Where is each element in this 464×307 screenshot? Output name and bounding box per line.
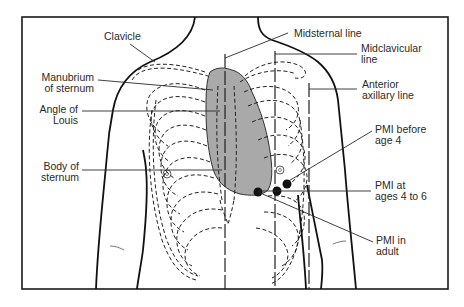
chest-pmi-diagram: Clavicle Manubrium of sternum Angle of L… (0, 0, 464, 307)
heart-silhouette (206, 68, 272, 195)
label-midclavicular-line: Midclavicular line (361, 43, 422, 65)
leader-pmi-before-4 (287, 131, 372, 182)
label-body-of-sternum: Body of sternum (38, 161, 79, 183)
label-manubrium: Manubrium of sternum (38, 72, 94, 94)
pmi-before-age-4-dot (283, 180, 292, 189)
label-anterior-axillary-line: Anterior axillary line (362, 79, 414, 101)
contour-mark-right (333, 241, 346, 244)
right-nipple (276, 166, 284, 174)
label-pmi-adult: PMI in adult (376, 235, 406, 257)
label-clavicle: Clavicle (104, 31, 141, 42)
label-pmi-before-age-4: PMI before age 4 (375, 124, 426, 146)
leader-manubrium (98, 80, 213, 90)
label-midsternal-line: Midsternal line (294, 28, 362, 39)
label-pmi-ages-4-to-6: PMI at ages 4 to 6 (375, 180, 427, 202)
label-angle-of-louis: Angle of Louis (36, 104, 78, 126)
leader-clavicle (130, 44, 155, 62)
contour-mark-left (110, 246, 124, 250)
